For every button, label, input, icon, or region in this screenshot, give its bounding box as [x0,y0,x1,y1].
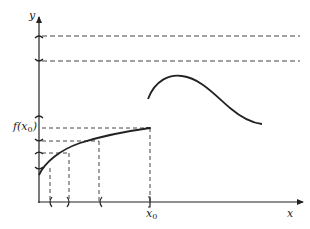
left-curve [39,128,150,175]
f-x0-text: f(x [13,120,28,133]
y-axis-label: y [29,10,35,21]
x0-label: x0 [146,208,157,221]
lower-dashed-lines [42,128,150,153]
f-x0-close: ) [33,120,37,133]
x-axis-label: x [287,208,293,219]
right-curve [148,76,262,124]
upper-dashed-lines [42,36,300,61]
f-x0-label: f(x0) [13,121,37,134]
vertical-dashed-lines [50,128,150,201]
diagram-svg [0,0,310,229]
x0-subscript: 0 [152,212,157,221]
